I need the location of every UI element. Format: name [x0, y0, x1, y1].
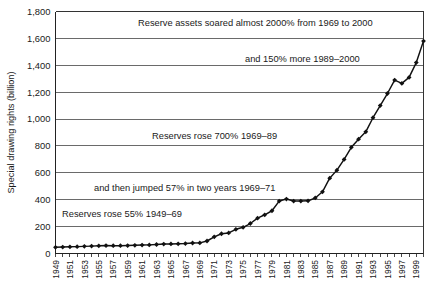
y-axis-title-group: Special drawing rights (billion): [6, 71, 16, 193]
chart-annotation: and 150% more 1989–2000: [245, 54, 360, 64]
x-axis-tick-label: 1973: [224, 260, 234, 279]
data-point-marker: [219, 231, 224, 236]
chart-annotation: and then jumped 57% in two years 1969–71: [94, 183, 275, 193]
data-point-marker: [104, 243, 109, 248]
data-point-marker: [96, 243, 101, 248]
x-axis-tick-label: 1989: [339, 260, 349, 279]
y-axis-tick-label: 600: [35, 167, 51, 178]
data-point-marker: [183, 241, 188, 246]
y-axis-tick-label: 0: [45, 248, 50, 259]
x-axis-tick-label: 1953: [80, 260, 90, 279]
x-axis-ticklabels-group: 1949195119531955195719591961196319651967…: [51, 260, 422, 279]
data-point-marker: [176, 241, 181, 246]
data-point-marker: [306, 198, 311, 203]
y-axis-tick-label: 800: [35, 140, 51, 151]
data-point-marker: [190, 241, 195, 246]
data-point-marker: [421, 39, 426, 44]
chart-annotation: Reserves rose 700% 1969–89: [152, 131, 277, 141]
x-axis-tick-label: 1949: [51, 260, 61, 279]
data-point-marker: [414, 60, 419, 65]
data-point-marker: [82, 244, 87, 249]
x-axis-tick-label: 1961: [137, 260, 147, 279]
data-point-marker: [147, 242, 152, 247]
y-axis-tick-label: 1,400: [27, 60, 50, 71]
data-point-marker: [226, 231, 231, 236]
x-axis-tick-label: 1997: [397, 260, 407, 279]
y-axis-tick-label: 1,800: [27, 6, 50, 17]
annotations-group: Reserve assets soared almost 2000% from …: [62, 18, 373, 219]
x-axis-tick-label: 1957: [108, 260, 118, 279]
chart-annotation: Reserve assets soared almost 2000% from …: [138, 18, 373, 28]
y-axis-tick-label: 1,600: [27, 33, 50, 44]
x-axis-tick-label: 1959: [123, 260, 133, 279]
x-axis-tick-label: 1981: [282, 260, 292, 279]
x-axis-tick-label: 1975: [238, 260, 248, 279]
data-point-marker: [132, 243, 137, 248]
x-axis-tick-label: 1979: [267, 260, 277, 279]
data-point-marker: [161, 242, 166, 247]
data-point-marker: [60, 245, 65, 250]
data-point-marker: [233, 227, 238, 232]
y-axis-tick-label: 1,000: [27, 113, 50, 124]
x-axis-tick-label: 1993: [368, 260, 378, 279]
x-axis-tick-label: 1995: [383, 260, 393, 279]
chart-annotation: Reserves rose 55% 1949–69: [62, 209, 182, 219]
x-axis-tick-label: 1983: [296, 260, 306, 279]
data-point-marker: [197, 240, 202, 245]
x-axis-tick-label: 1985: [310, 260, 320, 279]
x-axis-tick-label: 1965: [166, 260, 176, 279]
x-axis-tick-label: 1999: [411, 260, 421, 279]
data-point-marker: [118, 243, 123, 248]
data-point-marker: [68, 244, 73, 249]
y-axis-ticklabels-group: 02004006008001,0001,2001,4001,6001,800: [27, 6, 50, 259]
x-axis-tick-label: 1951: [65, 260, 75, 279]
y-axis-title: Special drawing rights (billion): [6, 71, 16, 193]
data-point-marker: [140, 243, 145, 248]
x-axis-tick-label: 1963: [152, 260, 162, 279]
data-point-marker: [154, 242, 159, 247]
line-chart: 02004006008001,0001,2001,4001,6001,800 1…: [0, 0, 435, 288]
data-point-marker: [111, 243, 116, 248]
gridlines-group: [56, 12, 424, 227]
data-point-marker: [125, 243, 130, 248]
data-point-marker: [284, 197, 289, 202]
chart-container: 02004006008001,0001,2001,4001,6001,800 1…: [0, 0, 435, 288]
x-axis-tick-label: 1987: [325, 260, 335, 279]
x-axis-tick-label: 1991: [354, 260, 364, 279]
x-axis-tick-label: 1971: [209, 260, 219, 279]
y-axis-tick-label: 1,200: [27, 87, 50, 98]
x-axis-tick-label: 1969: [195, 260, 205, 279]
y-axis-tick-label: 200: [35, 221, 51, 232]
data-point-marker: [75, 244, 80, 249]
y-axis-tick-label: 400: [35, 194, 51, 205]
x-axis-tick-label: 1977: [253, 260, 263, 279]
data-point-marker: [53, 245, 58, 250]
data-point-marker: [169, 242, 174, 247]
data-point-marker: [89, 244, 94, 249]
x-axis-tick-label: 1955: [94, 260, 104, 279]
x-axis-tick-label: 1967: [181, 260, 191, 279]
